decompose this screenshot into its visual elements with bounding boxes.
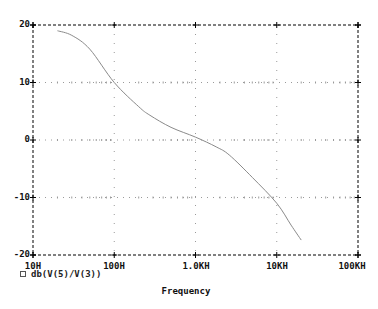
tick-mark	[355, 137, 361, 143]
grid-dot	[244, 197, 245, 199]
grid-dot	[71, 139, 72, 141]
grid-dot	[301, 82, 302, 84]
tick-mark	[193, 252, 199, 258]
x-tick-label: 100KH	[338, 261, 365, 271]
grid-dot	[138, 82, 139, 84]
grid-dot	[96, 197, 97, 199]
grid-dot	[191, 139, 192, 141]
tick-mark	[30, 22, 36, 28]
grid-dot	[106, 139, 107, 141]
grid-dot	[101, 197, 102, 199]
grid-dot	[106, 82, 107, 84]
grid-dot	[106, 197, 107, 199]
tick-mark	[274, 252, 280, 258]
grid-dot	[252, 82, 253, 84]
grid-dot	[71, 82, 72, 84]
tick-mark	[30, 80, 36, 86]
grid-dot	[354, 139, 355, 141]
tick-mark	[355, 195, 361, 201]
grid-dot	[301, 139, 302, 141]
grid-dot	[96, 139, 97, 141]
grid-dot	[187, 139, 188, 141]
grid-dot	[138, 197, 139, 199]
grid-dot	[101, 82, 102, 84]
tick-mark	[111, 252, 117, 258]
y-tick-label: -20	[4, 249, 30, 259]
grid-dot	[325, 139, 326, 141]
grid-dot	[187, 82, 188, 84]
grid-dot	[350, 139, 351, 141]
grid-dot	[163, 82, 164, 84]
grid-dot	[110, 197, 111, 199]
y-tick-label: 10	[4, 77, 30, 87]
grid-dot	[258, 139, 259, 141]
grid-dot	[264, 139, 265, 141]
x-tick-label: 10KH	[266, 261, 288, 271]
legend-label: db(V(5)/V(3))	[31, 269, 101, 279]
grid-dot	[110, 139, 111, 141]
grid-dot	[187, 197, 188, 199]
legend-square-marker-icon	[20, 271, 26, 277]
legend: db(V(5)/V(3))	[20, 269, 101, 279]
grid-dot	[258, 197, 259, 199]
grid-dot	[268, 197, 269, 199]
grid-dot	[163, 139, 164, 141]
grid-dot	[350, 82, 351, 84]
grid-dot	[264, 82, 265, 84]
grid-dot	[354, 197, 355, 199]
grid-dot	[301, 197, 302, 199]
grid-dot	[191, 197, 192, 199]
grid-dot	[325, 82, 326, 84]
grid-dot	[354, 82, 355, 84]
data-trace	[57, 31, 301, 240]
tick-mark	[30, 252, 36, 258]
grid-dot	[252, 139, 253, 141]
grid-dot	[89, 139, 90, 141]
grid-dot	[89, 82, 90, 84]
grid-dot	[258, 82, 259, 84]
grid-dot	[110, 82, 111, 84]
grid-dot	[244, 82, 245, 84]
tick-mark	[193, 22, 199, 28]
tick-mark	[30, 195, 36, 201]
tick-mark	[274, 22, 280, 28]
x-tick-label: 1.0KH	[182, 261, 209, 271]
grid-dot	[163, 197, 164, 199]
grid-dot	[138, 139, 139, 141]
tick-mark	[30, 137, 36, 143]
grid-dot	[191, 82, 192, 84]
grid-dot	[234, 82, 235, 84]
grid-dot	[244, 139, 245, 141]
grid-dot	[71, 197, 72, 199]
grid-dot	[234, 197, 235, 199]
x-axis-title: Frequency	[162, 286, 211, 296]
tick-mark	[111, 22, 117, 28]
tick-mark	[355, 22, 361, 28]
grid-dot	[252, 197, 253, 199]
x-tick-label: 100H	[103, 261, 125, 271]
grid-dot	[101, 139, 102, 141]
grid-dot	[350, 197, 351, 199]
y-tick-label: 20	[4, 19, 30, 29]
grid-dot	[268, 139, 269, 141]
tick-mark	[355, 252, 361, 258]
y-tick-label: -10	[4, 192, 30, 202]
grid-dot	[268, 82, 269, 84]
grid-dot	[234, 139, 235, 141]
grid-dot	[264, 197, 265, 199]
grid-dot	[89, 197, 90, 199]
grid-dot	[325, 197, 326, 199]
y-tick-label: 0	[4, 134, 30, 144]
tick-mark	[355, 80, 361, 86]
grid-dot	[96, 82, 97, 84]
